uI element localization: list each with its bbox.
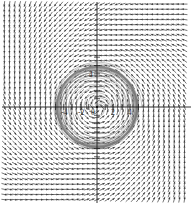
vector-arrow-head (94, 85, 96, 87)
vector-arrow-head (29, 97, 31, 99)
vector-arrow-head (8, 56, 10, 58)
vector-arrow-head (14, 72, 16, 74)
vector-arrow-head (120, 29, 122, 31)
vector-arrow-head (8, 72, 10, 74)
x-tick-label: 4 (128, 108, 132, 117)
vector-arrow-head (151, 8, 153, 10)
vector-arrow-head (9, 77, 11, 79)
vector-arrow-head (146, 13, 148, 15)
vector-arrow-head (77, 183, 79, 185)
vector-arrow-head (166, 3, 168, 5)
vector-arrow-head (19, 77, 21, 79)
x-tick-label: -4 (61, 108, 67, 117)
vector-arrow-head (130, 24, 132, 26)
vector-arrow-head (151, 3, 153, 5)
vector-arrow-head (136, 13, 138, 15)
vector-arrow-head (147, 104, 149, 106)
vector-arrow-head (50, 102, 52, 104)
vector-arrow-head (44, 102, 46, 104)
vector-arrow-head (87, 173, 89, 175)
vector-arrow-head (14, 66, 16, 68)
vector-arrow-head (8, 51, 10, 53)
vector-arrow-head (3, 46, 5, 48)
vector-arrow-head (120, 24, 122, 26)
vector-arrow-head (24, 87, 26, 89)
y-tick-label: 4 (89, 70, 93, 79)
vector-arrow-head (130, 13, 132, 15)
vector-arrow-head (98, 121, 100, 123)
vector-arrow-head (173, 125, 175, 127)
vector-arrow-head (163, 115, 165, 117)
vector-arrow-head (3, 30, 5, 32)
vector-arrow-head (14, 82, 16, 84)
x-tick-label: 2 (111, 108, 115, 117)
vector-arrow-head (3, 61, 5, 63)
vector-arrow-head (72, 188, 74, 190)
vector-arrow-head (34, 92, 36, 94)
phase-portrait-figure: -4-20244 (0, 0, 193, 205)
vector-arrow-head (161, 3, 163, 5)
vector-arrow-head (166, 8, 168, 10)
vector-arrow-head (98, 157, 100, 159)
vector-arrow-head (50, 108, 52, 110)
vector-arrow-head (19, 82, 21, 84)
vector-arrow-head (3, 41, 5, 43)
vector-arrow-head (34, 102, 36, 104)
vector-arrow-head (166, 13, 168, 15)
vector-arrow-head (19, 92, 21, 94)
vector-arrow-head (146, 18, 148, 20)
vector-arrow-head (100, 54, 102, 56)
vector-arrow-head (10, 199, 12, 201)
vector-arrow-head (151, 18, 153, 20)
vector-arrow-head (156, 3, 158, 5)
vector-arrow-head (3, 66, 5, 68)
vector-arrow-head (120, 34, 122, 36)
vector-arrow-head (156, 8, 158, 10)
vector-arrow-head (8, 66, 10, 68)
vector-arrow-head (3, 25, 5, 27)
phase-portrait-canvas: -4-20244 (0, 0, 193, 205)
vector-arrow-head (34, 97, 36, 99)
spiral-trajectories-layer (54, 62, 144, 149)
vector-arrow-head (82, 178, 84, 180)
vector-arrow-head (8, 61, 10, 63)
vector-arrow-head (3, 56, 5, 58)
vector-arrow-head (182, 3, 184, 5)
vector-arrow-head (92, 163, 94, 165)
vector-arrow-head (94, 75, 96, 77)
vector-arrow-head (3, 71, 5, 73)
vector-arrow-head (19, 87, 21, 89)
vector-arrow-head (125, 29, 127, 31)
vector-arrow-head (29, 87, 31, 89)
vector-arrow-head (136, 24, 138, 26)
vector-arrow-head (130, 18, 132, 20)
vector-arrow-head (45, 108, 47, 110)
vector-arrow-head (19, 71, 21, 73)
vector-arrow-head (136, 18, 138, 20)
vector-arrow-head (29, 92, 31, 94)
vector-arrow-head (105, 44, 107, 46)
vector-arrow-head (172, 13, 174, 15)
vector-arrow-head (100, 49, 102, 51)
vector-arrow-head (130, 29, 132, 31)
vector-arrow-head (61, 199, 63, 201)
vector-arrow-head (115, 34, 117, 36)
vector-arrow-head (127, 104, 129, 106)
vector-arrow-head (161, 8, 163, 10)
vector-arrow-head (125, 24, 127, 26)
vector-arrow-head (156, 13, 158, 15)
vector-arrow-head (172, 8, 174, 10)
vector-arrow-head (82, 183, 84, 185)
vector-arrow-head (151, 13, 153, 15)
vector-arrow-head (110, 44, 112, 46)
vector-arrow-head (14, 77, 16, 79)
vector-arrow-head (110, 39, 112, 41)
vector-arrow-head (56, 199, 58, 201)
vector-arrow-head (67, 193, 69, 195)
vector-arrow-head (141, 13, 143, 15)
vector-arrow-head (98, 152, 100, 154)
vector-arrow-head (14, 61, 16, 63)
vector-arrow-head (24, 82, 26, 84)
vector-arrow-head (8, 46, 10, 48)
vector-arrow-head (105, 49, 107, 51)
